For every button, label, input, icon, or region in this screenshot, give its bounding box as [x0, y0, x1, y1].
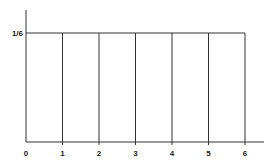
- x-tick-label: 4: [170, 149, 175, 158]
- x-tick-label: 5: [206, 149, 211, 158]
- x-tick-label: 0: [24, 149, 29, 158]
- x-tick-label: 2: [97, 149, 102, 158]
- x-tick-label: 3: [133, 149, 138, 158]
- axes: [26, 10, 264, 142]
- y-tick-label: 1/6: [12, 29, 24, 38]
- x-tick-label: 1: [60, 149, 65, 158]
- x-tick-label: 6: [243, 149, 248, 158]
- labels: 01234561/6: [12, 29, 248, 158]
- uniform-distribution-chart: 01234561/6: [0, 0, 273, 162]
- bars: [26, 33, 245, 145]
